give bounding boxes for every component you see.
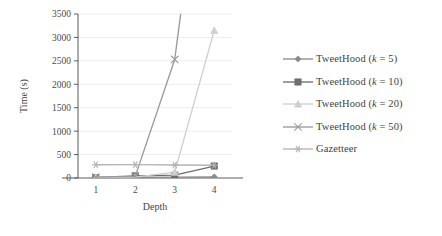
x-tick-label: 1: [93, 185, 98, 195]
x-tick-label: 2: [133, 185, 138, 195]
y-tick-label: 1000: [52, 127, 71, 137]
gridlines-group: [78, 14, 232, 155]
data-series-group: [92, 0, 218, 181]
legend-item-label: Gazetteer: [316, 144, 357, 155]
series-line: [96, 30, 214, 177]
data-point-marker: [295, 56, 301, 62]
y-tick-label: 2000: [52, 80, 71, 90]
data-point-marker: [211, 174, 217, 180]
legend-item-label: TweetHood (k = 50): [316, 122, 403, 133]
legend-item[interactable]: TweetHood (k = 5): [283, 48, 439, 71]
series-line: [96, 0, 214, 177]
series-line: [96, 165, 214, 166]
legend-marker-icon: [283, 142, 313, 156]
data-point-marker: [294, 146, 302, 153]
data-series: [92, 27, 217, 180]
legend-marker-icon: [283, 52, 313, 66]
line-chart-figure: 0500100015002000250030003500 1234 Time (…: [0, 0, 442, 236]
x-axis-title: Depth: [143, 201, 167, 212]
legend-item[interactable]: TweetHood (k = 20): [283, 93, 439, 116]
y-tick-label: 1500: [52, 103, 71, 113]
legend-item-label: TweetHood (k = 20): [316, 99, 403, 110]
x-tick-label: 4: [212, 185, 217, 195]
data-series: [92, 161, 218, 168]
x-tick-group: 1234: [93, 185, 216, 195]
y-tick-label: 3500: [52, 9, 71, 19]
y-tick-label: 500: [57, 150, 72, 160]
legend-item-label: TweetHood (k = 10): [316, 77, 403, 88]
data-point-marker: [92, 161, 100, 168]
y-tick-label: 2500: [52, 56, 71, 66]
data-point-marker: [211, 27, 218, 34]
x-tick-label: 3: [172, 185, 177, 195]
series-line: [96, 166, 214, 177]
legend-item[interactable]: Gazetteer: [283, 138, 439, 161]
legend-item-label: TweetHood (k = 5): [316, 54, 397, 65]
y-axis-title: Time (s): [18, 79, 30, 113]
y-tick-label: 3000: [52, 33, 71, 43]
legend-item[interactable]: TweetHood (k = 50): [283, 116, 439, 139]
y-tick-group: 0500100015002000250030003500: [52, 9, 78, 183]
legend-marker-icon: [283, 120, 313, 134]
data-series: [92, 0, 214, 181]
data-point-marker: [295, 79, 301, 85]
legend-item[interactable]: TweetHood (k = 10): [283, 71, 439, 94]
legend-marker-icon: [283, 97, 313, 111]
chart-legend: TweetHood (k = 5)TweetHood (k = 10)Tweet…: [283, 48, 439, 161]
legend-marker-icon: [283, 75, 313, 89]
